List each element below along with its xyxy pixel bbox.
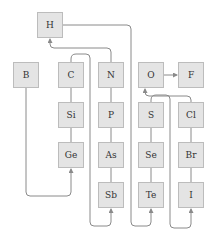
node-label: Cl [186,110,196,120]
node-label: P [108,110,114,120]
node-label: I [189,190,193,200]
node-i: I [178,182,204,208]
node-h: H [37,12,63,38]
node-s: S [138,102,164,128]
node-label: S [148,110,154,120]
node-te: Te [138,182,164,208]
node-label: Ge [65,150,78,160]
node-label: Se [145,150,157,160]
node-si: Si [58,102,84,128]
node-label: O [147,70,154,80]
node-c: C [58,62,84,88]
node-label: F [188,70,194,80]
node-n: N [98,62,124,88]
node-label: Te [146,190,157,200]
node-se: Se [138,142,164,168]
node-label: As [105,150,116,160]
node-br: Br [178,142,204,168]
node-label: Br [186,150,197,160]
node-label: N [107,70,115,80]
node-p: P [98,102,124,128]
node-f: F [178,62,204,88]
node-label: Si [66,110,75,120]
node-label: H [46,20,54,30]
node-ge: Ge [58,142,84,168]
node-label: B [23,70,30,80]
node-o: O [138,62,164,88]
edge-n-h [50,39,111,62]
element-diagram: H B C N O F Si P S Cl Ge As Se Br Sb Te … [0,0,220,238]
node-b: B [13,62,39,88]
node-sb: Sb [98,182,124,208]
node-label: C [68,70,75,80]
node-cl: Cl [178,102,204,128]
node-as: As [98,142,124,168]
node-label: Sb [105,190,117,200]
